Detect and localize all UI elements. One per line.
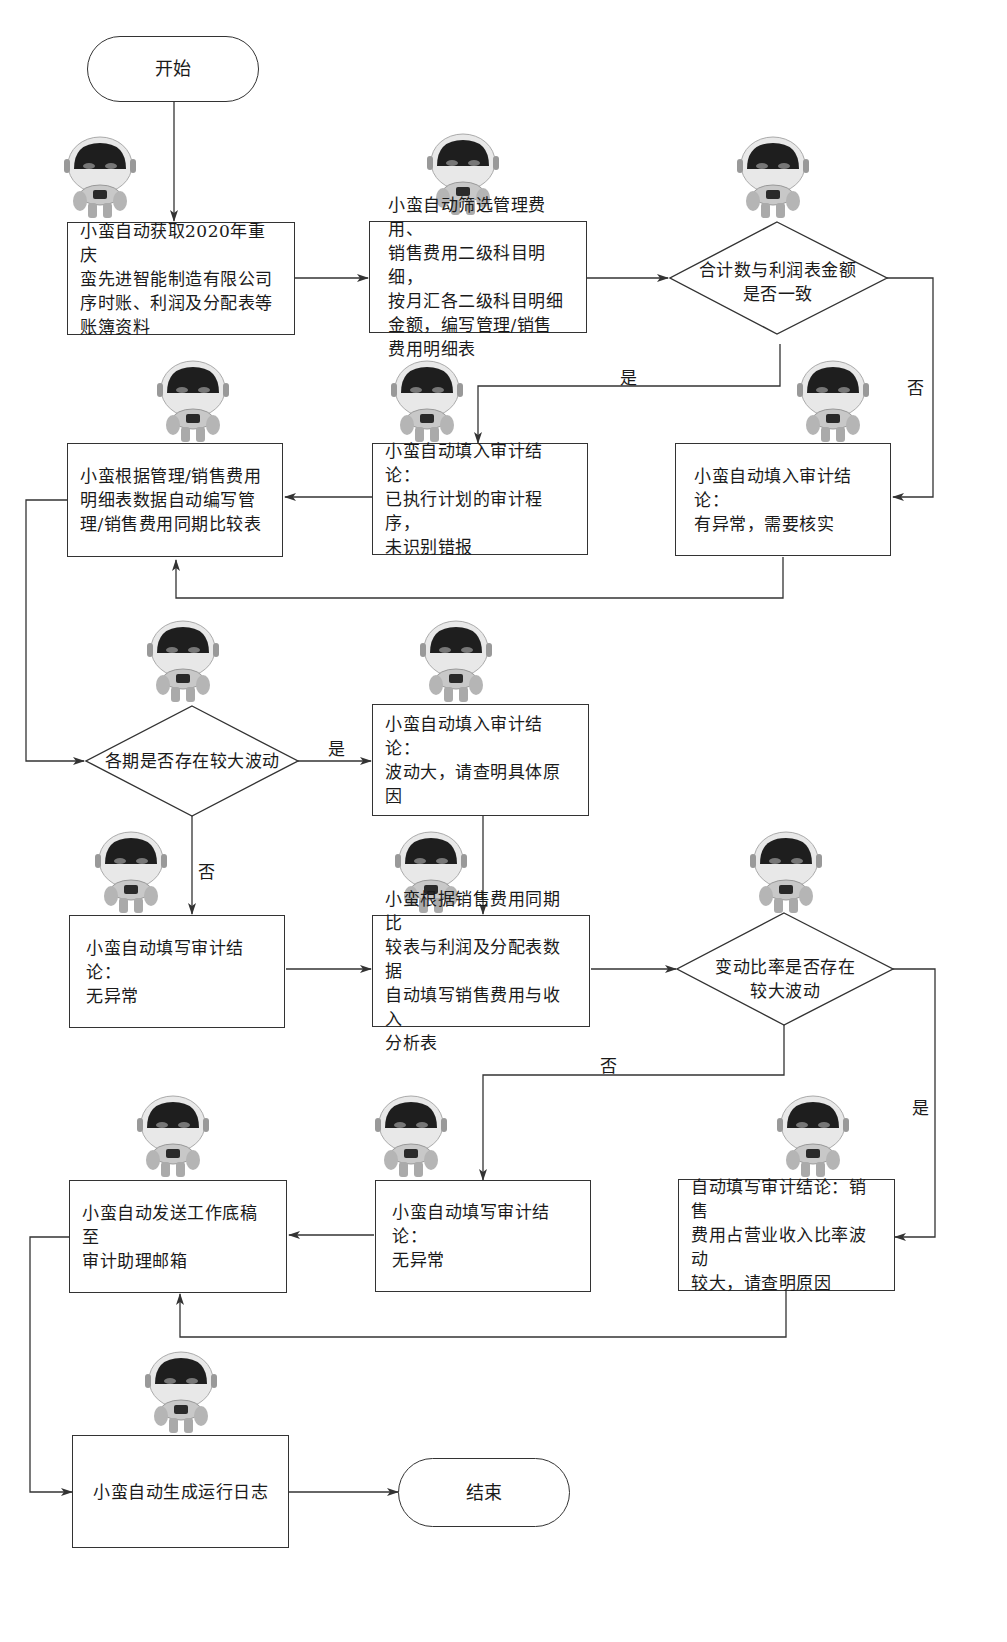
robot-icon (420, 621, 492, 702)
process-conclusion-abnormal-text: 小蛮自动填入审计结论： 有异常，需要核实 (694, 464, 872, 536)
edge-label-yes-period-fluctuation: 是 (328, 735, 345, 760)
decision-totals-match-label: 合计数与利润表金额 是否一致 (680, 258, 875, 306)
process-conclusion-large-fluctuation-text: 小蛮自动填入审计结论： 波动大，请查明具体原因 (385, 712, 576, 808)
process-generate-log-text: 小蛮自动生成运行日志 (93, 1480, 268, 1504)
process-fetch-books-text: 小蛮自动获取2020年重庆 蛮先进智能制造有限公司 序时账、利润及分配表等 账簿… (80, 219, 282, 339)
process-conclusion-no-misstatement-text: 小蛮自动填入审计结论： 已执行计划的审计程序， 未识别错报 (385, 439, 575, 559)
robot-icon (137, 1096, 209, 1177)
robot-icon (95, 832, 167, 913)
process-generate-log: 小蛮自动生成运行日志 (72, 1435, 289, 1548)
robot-icon (145, 1352, 217, 1433)
process-conclusion-normal-2-text: 小蛮自动填写审计结论： 无异常 (392, 1200, 574, 1272)
decision-ratio-fluctuation-label: 变动比率是否存在 较大波动 (690, 955, 880, 1003)
robot-icon (375, 1096, 447, 1177)
process-conclusion-normal-1-text: 小蛮自动填写审计结论： 无异常 (86, 936, 268, 1008)
process-send-workpaper: 小蛮自动发送工作底稿至 审计助理邮箱 (69, 1180, 287, 1293)
robot-icon (750, 832, 822, 913)
process-sales-income-analysis: 小蛮根据销售费用同期比 较表与利润及分配表数据 自动填写销售费用与收入 分析表 (372, 915, 590, 1027)
process-conclusion-ratio-fluctuation-text: 自动填写审计结论：销售 费用占营业收入比率波动 较大，请查明原因 (691, 1175, 882, 1295)
process-fetch-books: 小蛮自动获取2020年重庆 蛮先进智能制造有限公司 序时账、利润及分配表等 账簿… (67, 222, 295, 335)
process-conclusion-no-misstatement: 小蛮自动填入审计结论： 已执行计划的审计程序， 未识别错报 (372, 443, 588, 555)
robot-icon (147, 621, 219, 702)
process-compile-comparison-text: 小蛮根据管理/销售费用 明细表数据自动编写管 理/销售费用同期比较表 (80, 464, 261, 536)
edge-label-no-period-fluctuation: 否 (198, 858, 215, 883)
process-conclusion-normal-1: 小蛮自动填写审计结论： 无异常 (69, 915, 285, 1028)
robot-icon (777, 1096, 849, 1177)
process-compile-comparison: 小蛮根据管理/销售费用 明细表数据自动编写管 理/销售费用同期比较表 (67, 443, 283, 557)
edge-label-no-ratio-fluctuation: 否 (600, 1052, 617, 1077)
robot-icon (157, 361, 229, 442)
robot-icon (64, 137, 136, 218)
robot-icon (737, 137, 809, 218)
edge-label-yes-ratio-fluctuation: 是 (912, 1094, 929, 1119)
process-filter-expenses-text: 小蛮自动筛选管理费用、 销售费用二级科目明细， 按月汇各二级科目明细 金额，编写… (388, 193, 568, 361)
decision-period-fluctuation-label: 各期是否存在较大波动 (92, 749, 292, 773)
robot-icon (391, 361, 463, 442)
robot-icon (797, 361, 869, 442)
end-terminal: 结束 (398, 1458, 570, 1527)
process-conclusion-normal-2: 小蛮自动填写审计结论： 无异常 (375, 1180, 591, 1292)
process-conclusion-abnormal: 小蛮自动填入审计结论： 有异常，需要核实 (675, 443, 891, 556)
process-send-workpaper-text: 小蛮自动发送工作底稿至 审计助理邮箱 (82, 1201, 274, 1273)
start-terminal: 开始 (87, 36, 259, 102)
process-conclusion-large-fluctuation: 小蛮自动填入审计结论： 波动大，请查明具体原因 (372, 704, 589, 816)
process-filter-expenses: 小蛮自动筛选管理费用、 销售费用二级科目明细， 按月汇各二级科目明细 金额，编写… (369, 221, 587, 333)
process-sales-income-analysis-text: 小蛮根据销售费用同期比 较表与利润及分配表数据 自动填写销售费用与收入 分析表 (385, 887, 577, 1055)
end-label: 结束 (466, 1481, 503, 1505)
start-label: 开始 (155, 57, 192, 81)
edge-label-no-totals-match: 否 (907, 374, 924, 399)
process-conclusion-ratio-fluctuation: 自动填写审计结论：销售 费用占营业收入比率波动 较大，请查明原因 (678, 1179, 895, 1291)
edge-label-yes-totals-match: 是 (620, 364, 637, 389)
